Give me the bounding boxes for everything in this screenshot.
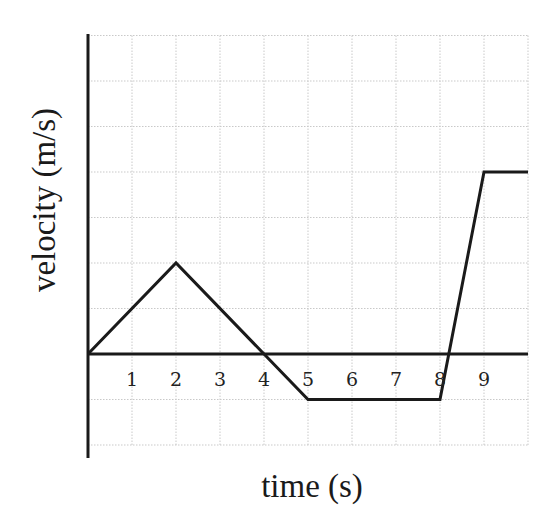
y-axis-label: velocity (m/s): [26, 108, 63, 292]
x-tick-label: 1: [126, 368, 138, 390]
x-axis-label: time (s): [261, 468, 363, 505]
x-tick-label: 3: [214, 368, 226, 390]
x-tick-label: 4: [258, 368, 270, 390]
x-tick-labels: 123456789: [126, 368, 490, 390]
x-tick-label: 7: [390, 368, 402, 390]
velocity-time-chart: 123456789 time (s) velocity (m/s): [0, 0, 557, 522]
x-tick-label: 8: [434, 368, 446, 390]
x-tick-label: 5: [302, 368, 314, 390]
x-tick-label: 9: [478, 368, 490, 390]
x-tick-label: 2: [170, 368, 182, 390]
x-tick-label: 6: [346, 368, 358, 390]
